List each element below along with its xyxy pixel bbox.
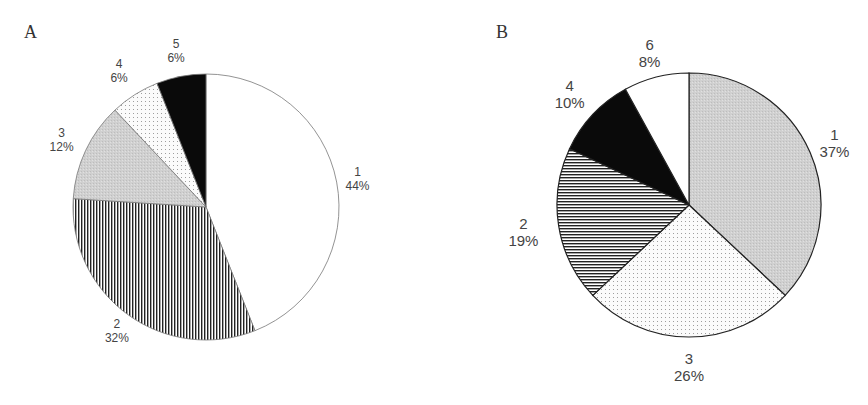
slice-percent-label: 12% — [50, 140, 74, 154]
slice-percent-label: 26% — [674, 367, 704, 384]
slice-percent-label: 10% — [555, 94, 585, 111]
slice-category-label: 2 — [114, 317, 121, 331]
slice-category-label: 1 — [354, 165, 361, 179]
slice-percent-label: 44% — [345, 179, 369, 193]
slice-category-label: 3 — [685, 350, 693, 367]
slice-category-label: 3 — [58, 126, 65, 140]
slice-category-label: 2 — [519, 215, 527, 232]
slice-category-label: 4 — [566, 77, 574, 94]
slice-category-label: 6 — [645, 36, 653, 53]
pie-chart-b: 137%326%219%410%68% — [508, 36, 849, 384]
slice-percent-label: 37% — [819, 143, 849, 160]
slice-percent-label: 32% — [105, 331, 129, 345]
slice-category-label: 4 — [116, 57, 123, 71]
slice-percent-label: 6% — [110, 71, 128, 85]
slice-category-label: 1 — [830, 126, 838, 143]
slice-percent-label: 6% — [167, 51, 185, 65]
pie-chart-a: 144%232%312%46%56% — [50, 37, 370, 345]
slice-percent-label: 8% — [639, 53, 661, 70]
pie-charts: 144%232%312%46%56% 137%326%219%410%68% — [0, 0, 868, 405]
slice-percent-label: 19% — [508, 232, 538, 249]
slice-category-label: 5 — [173, 37, 180, 51]
